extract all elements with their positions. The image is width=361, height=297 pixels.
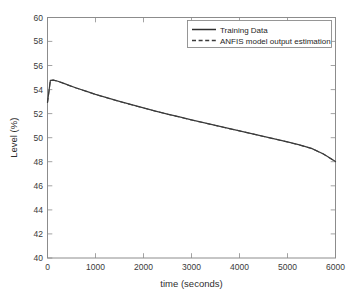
figure-canvas: 40 42 44 46 48 50 52 54 56 58 60 0 1000 … xyxy=(0,0,361,297)
x-tick-label: 5000 xyxy=(278,262,297,272)
y-tick-label: 50 xyxy=(34,133,44,143)
y-tick-label: 48 xyxy=(34,157,44,167)
x-axis-title: time (seconds) xyxy=(160,278,222,289)
y-tick-label: 40 xyxy=(34,253,44,263)
y-tick-label: 56 xyxy=(34,61,44,71)
y-tick-label: 54 xyxy=(34,85,44,95)
x-tick-label: 0 xyxy=(45,262,50,272)
x-tick-label: 3000 xyxy=(182,262,201,272)
x-tick-label: 4000 xyxy=(230,262,249,272)
chart-plot: 40 42 44 46 48 50 52 54 56 58 60 0 1000 … xyxy=(0,0,361,297)
legend-label-anfis-estimation: ANFIS model output estimation xyxy=(220,37,331,46)
legend-label-training-data: Training Data xyxy=(220,26,268,35)
x-tick-label: 2000 xyxy=(134,262,153,272)
y-tick-label: 44 xyxy=(34,205,44,215)
chart-legend[interactable]: Training Data ANFIS model output estimat… xyxy=(188,21,332,48)
y-tick-label: 58 xyxy=(34,36,44,46)
y-tick-label: 46 xyxy=(34,181,44,191)
y-tick-label: 60 xyxy=(34,13,44,23)
y-tick-label: 52 xyxy=(34,109,44,119)
y-axis-title: Level (%) xyxy=(8,118,19,158)
x-tick-label: 6000 xyxy=(326,262,345,272)
y-tick-label: 42 xyxy=(34,229,44,239)
x-tick-label: 1000 xyxy=(86,262,105,272)
